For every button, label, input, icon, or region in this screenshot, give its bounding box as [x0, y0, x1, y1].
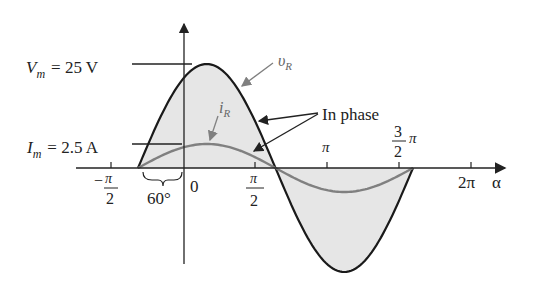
tick-label-two-pi: 2π — [458, 173, 476, 192]
svg-text:3: 3 — [394, 123, 402, 140]
svg-text:2: 2 — [394, 143, 402, 160]
phase-brace — [143, 172, 182, 186]
svg-text:π: π — [250, 171, 258, 186]
vr-arrow — [242, 63, 273, 86]
svg-text:π: π — [409, 130, 417, 146]
svg-text:π: π — [105, 171, 113, 186]
tick-label-pi-half: π 2 — [246, 171, 264, 209]
in-phase-arrow-current — [254, 114, 318, 151]
vr-label: υR — [278, 52, 292, 72]
svg-text:2: 2 — [250, 192, 258, 209]
tick-label-zero: 0 — [190, 177, 199, 196]
in-phase-label: In phase — [322, 105, 379, 124]
vm-label: Vm= 25 V — [26, 58, 99, 81]
svg-text:−: − — [94, 172, 103, 189]
tick-label-three-pi-half: 3 2 π — [392, 123, 417, 160]
im-label: Im= 2.5 A — [26, 138, 99, 161]
x-axis-label: α — [492, 173, 501, 192]
phase-shift-label: 60° — [147, 189, 171, 208]
tick-label-pi: π — [322, 139, 330, 155]
svg-text:2: 2 — [106, 190, 114, 207]
waveform-diagram: Vm= 25 V Im= 2.5 A υR iR In phase − π 2 … — [0, 0, 533, 291]
tick-label-neg-pi-half: − π 2 — [94, 171, 118, 207]
